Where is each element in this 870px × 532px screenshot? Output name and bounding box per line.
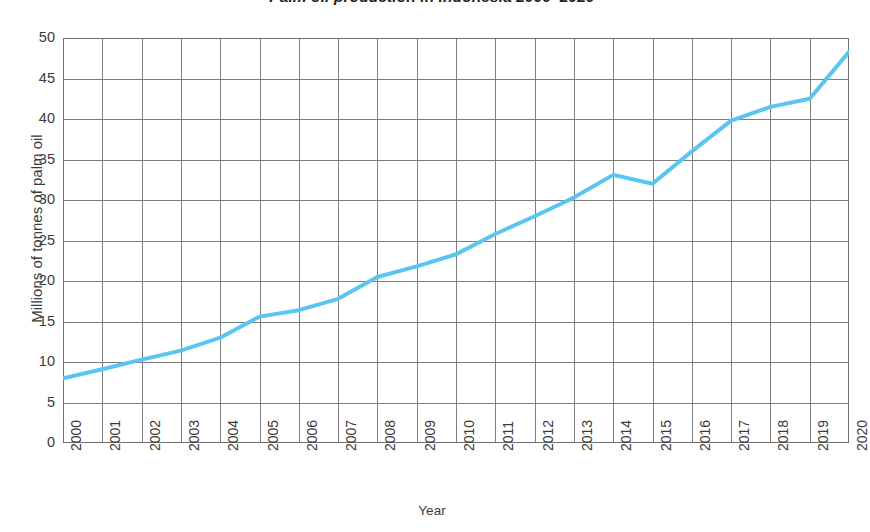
x-tick-label: 2003 (187, 401, 201, 451)
x-tick-label: 2008 (383, 401, 397, 451)
x-tick-label: 2018 (776, 401, 790, 451)
x-tick-label: 2020 (855, 401, 869, 451)
x-tick-label: 2016 (698, 401, 712, 451)
x-tick-label: 2001 (108, 401, 122, 451)
x-tick-label: 2012 (541, 401, 555, 451)
x-tick-label: 2000 (69, 401, 83, 451)
x-tick-label: 2019 (816, 401, 830, 451)
x-tick-label: 2004 (226, 401, 240, 451)
x-tick-label: 2009 (423, 401, 437, 451)
x-tick-label: 2014 (619, 401, 633, 451)
x-tick-label: 2006 (305, 401, 319, 451)
x-tick-label: 2010 (462, 401, 476, 451)
x-tick-label: 2011 (501, 401, 515, 451)
x-axis-title: Year (0, 503, 864, 518)
x-tick-label: 2017 (737, 401, 751, 451)
x-tick-label: 2005 (266, 401, 280, 451)
x-tick-label: 2002 (148, 401, 162, 451)
x-tick-label: 2013 (580, 401, 594, 451)
x-tick-label: 2015 (659, 401, 673, 451)
x-tick-label: 2007 (344, 401, 358, 451)
